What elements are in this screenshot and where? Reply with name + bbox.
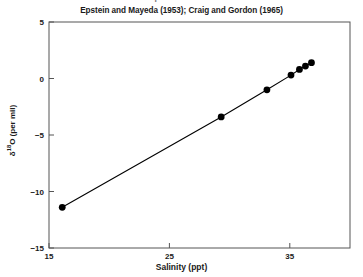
y-tick-marks <box>49 22 54 248</box>
data-line <box>62 63 311 208</box>
y-axis-title-delta: δ <box>8 151 17 156</box>
data-point <box>302 63 309 70</box>
x-tick-marks <box>49 243 290 248</box>
figure-canvas: Isotopic Ratio of Water Epstein and Maye… <box>0 0 363 277</box>
x-tick-label: 15 <box>45 252 54 261</box>
y-tick-label: 5 <box>8 18 44 27</box>
y-axis-title-rest: O (per mil) <box>8 105 17 145</box>
y-axis-title-superscript: 18 <box>6 145 12 151</box>
data-point <box>59 204 66 211</box>
data-point <box>218 114 225 121</box>
data-point <box>296 66 303 73</box>
y-tick-label: −15 <box>8 244 44 253</box>
plot-area <box>0 0 363 277</box>
data-point <box>288 72 295 79</box>
x-tick-label: 35 <box>285 252 294 261</box>
data-point <box>308 59 315 66</box>
axis-frame <box>49 22 350 248</box>
y-axis-title: δ18O (per mil) <box>8 71 17 191</box>
x-tick-label: 25 <box>165 252 174 261</box>
x-axis-title: Salinity (ppt) <box>0 262 363 272</box>
data-point <box>264 86 271 93</box>
